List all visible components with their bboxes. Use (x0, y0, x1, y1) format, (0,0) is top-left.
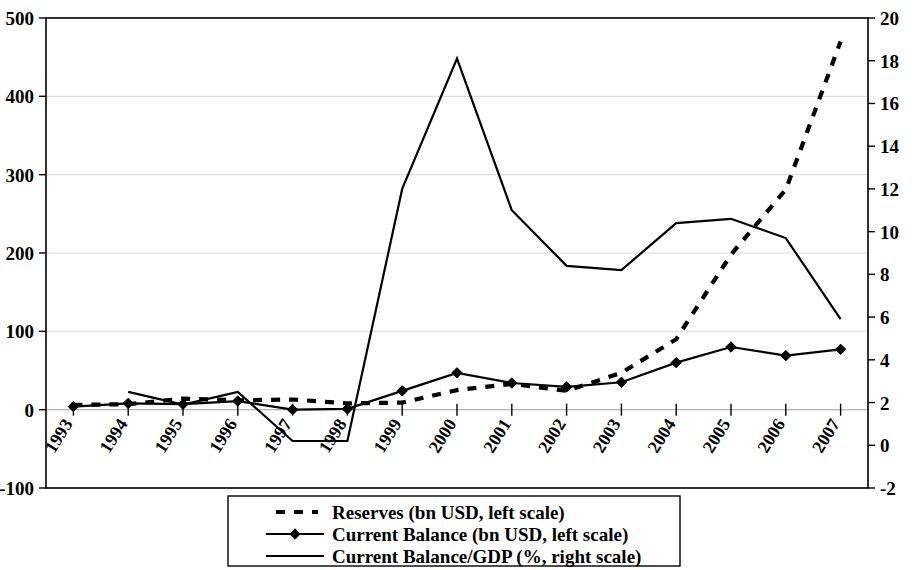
right-axis-tick-label: 18 (880, 51, 899, 72)
x-axis-tick-label: 2007 (808, 415, 844, 456)
economic-indicators-chart: -1000100200300400500 -202468101214161820… (0, 0, 917, 570)
right-axis-tick-label: 10 (880, 222, 899, 243)
x-axis-tick-label: 2000 (424, 415, 460, 456)
right-axis-tick-label: 4 (880, 350, 890, 371)
chart-container: -1000100200300400500 -202468101214161820… (0, 0, 917, 570)
right-y-axis: -202468101214161820 (868, 8, 900, 499)
left-axis-tick-label: 300 (6, 165, 35, 186)
left-axis-tick-label: 0 (25, 400, 35, 421)
right-axis-tick-label: 0 (880, 435, 890, 456)
x-axis-tick-label: 2002 (534, 415, 570, 456)
chart-legend: Reserves (bn USD, left scale)Current Bal… (228, 496, 680, 568)
gridlines (46, 96, 868, 409)
left-y-axis: -1000100200300400500 (0, 8, 46, 499)
x-axis-tick-label: 1997 (260, 415, 296, 456)
left-axis-tick-label: -100 (0, 478, 34, 499)
data-point-marker (616, 377, 626, 387)
legend-entry-label: Current Balance/GDP (%, right scale) (332, 546, 641, 568)
data-point-marker (397, 386, 407, 396)
x-axis-tick-label: 1996 (205, 415, 241, 456)
x-axis-tick-label: 2005 (698, 415, 734, 456)
data-point-marker (671, 357, 681, 367)
series-layer (68, 42, 846, 442)
left-axis-tick-label: 200 (6, 243, 35, 264)
x-axis-tick-label: 2006 (753, 415, 789, 456)
right-axis-tick-label: -2 (880, 478, 896, 499)
right-axis-tick-label: 2 (880, 393, 890, 414)
right-axis-tick-label: 16 (880, 93, 899, 114)
data-point-marker (507, 378, 517, 388)
data-point-marker (123, 398, 133, 408)
data-point-marker (287, 404, 297, 414)
data-point-marker (835, 344, 845, 354)
right-axis-tick-label: 6 (880, 307, 890, 328)
right-axis-tick-label: 14 (880, 136, 900, 157)
x-axis-tick-label: 2001 (479, 415, 515, 456)
x-axis-tick-label: 1994 (96, 415, 132, 456)
x-axis-tick-label: 2004 (644, 415, 680, 456)
data-point-marker (726, 342, 736, 352)
left-axis-tick-label: 400 (6, 86, 35, 107)
x-axis-tick-label: 1998 (315, 415, 351, 456)
x-axis-tick-label: 1999 (370, 415, 406, 456)
x-axis: 1993199419951996199719981999200020012002… (41, 404, 844, 457)
data-point-marker (233, 396, 243, 406)
legend-entry-label: Reserves (bn USD, left scale) (332, 502, 565, 524)
right-axis-tick-label: 20 (880, 8, 899, 29)
x-axis-tick-label: 1995 (150, 415, 186, 456)
left-axis-tick-label: 500 (6, 8, 35, 29)
x-axis-tick-label: 2003 (589, 415, 625, 456)
left-axis-tick-label: 100 (6, 321, 35, 342)
legend-entry-label: Current Balance (bn USD, left scale) (332, 524, 628, 546)
data-point-marker (452, 368, 462, 378)
right-axis-tick-label: 12 (880, 179, 899, 200)
data-point-marker (781, 350, 791, 360)
right-axis-tick-label: 8 (880, 264, 890, 285)
